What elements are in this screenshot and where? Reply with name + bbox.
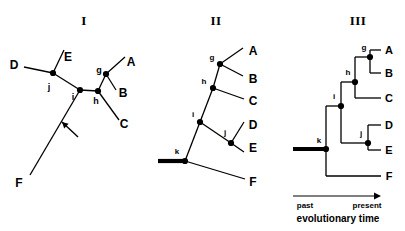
panel-II-branch-3: [213, 88, 244, 99]
panel-I-branch-0: [24, 67, 53, 73]
panel-II-branch-9: [185, 161, 245, 179]
panel-I-node-label-i: i: [72, 93, 75, 102]
panel-II-title: II: [210, 14, 221, 27]
time-axis-past-label: past: [297, 202, 313, 210]
panel-I-tip-label-F: F: [15, 177, 22, 189]
panel-II-tip-label-A: A: [249, 45, 258, 57]
panel-III-node-label-i: i: [333, 93, 335, 101]
panel-I-branch-4: [98, 74, 106, 91]
panel-III-tip-label-B: B: [385, 68, 393, 79]
panel-I-branch-7: [98, 91, 119, 120]
panel-III-tip-label-F: F: [386, 171, 393, 182]
panel-II-branch-7: [231, 143, 244, 152]
panel-I-tip-label-B: B: [119, 87, 128, 99]
panel-III-time-axis-arrowhead: [374, 193, 381, 200]
panel-II-node-label-i: i: [192, 111, 194, 119]
panel-II-branch-2: [213, 64, 220, 88]
panel-I-node-label-g: g: [96, 66, 102, 75]
panel-II-branch-5: [200, 122, 231, 143]
panel-III-node-label-j: j: [360, 130, 362, 138]
panel-I-title: I: [81, 14, 87, 27]
panel-II-node-label-j: j: [224, 129, 226, 137]
panel-III-node-g-marker: [367, 54, 373, 60]
panel-I-node-i-marker: [77, 87, 83, 93]
panel-II-node-j-marker: [228, 140, 234, 146]
panel-II-tip-label-D: D: [249, 119, 258, 131]
panel-III-tip-label-E: E: [385, 145, 392, 156]
panel-I-branch-8: [30, 90, 80, 175]
panel-II-node-i-marker: [197, 119, 203, 125]
panel-I-node-j-marker: [50, 70, 56, 76]
panel-II-tip-label-E: E: [249, 142, 257, 154]
panel-III-node-label-h: h: [346, 69, 351, 77]
time-axis-present-label: present: [353, 202, 382, 210]
panel-II-node-label-h: h: [202, 78, 207, 86]
panel-I-node-label-h: h: [93, 97, 99, 106]
panel-III-node-k-marker: [323, 146, 329, 152]
panel-III-node-label-g: g: [362, 44, 367, 52]
panel-II-node-label-k: k: [175, 148, 179, 156]
panel-I-tip-label-C: C: [120, 118, 129, 130]
panel-II-branch-6: [231, 122, 244, 143]
panel-III-tip-label-A: A: [385, 45, 393, 56]
panel-I-node-g-marker: [103, 71, 109, 77]
panel-III-node-j-marker: [365, 140, 371, 146]
tree-lines-layer: [0, 0, 405, 231]
panel-I-annotation-arrow-shaft: [62, 122, 78, 137]
panel-III-node-i-marker: [338, 103, 344, 109]
panel-I-annotation-arrow-head: [62, 122, 69, 128]
panel-II-tip-label-F: F: [249, 176, 256, 188]
panel-III-title: III: [350, 14, 367, 27]
panel-I-branch-2: [53, 73, 80, 90]
panel-I-tip-label-D: D: [10, 59, 19, 71]
panel-I-branch-5: [106, 57, 125, 74]
time-axis-title: evolutionary time: [297, 214, 380, 224]
panel-II-tip-label-C: C: [249, 95, 258, 107]
panel-II-node-g-marker: [217, 61, 223, 67]
panel-II-branch-8: [185, 122, 200, 161]
panel-II-branch-1: [220, 64, 243, 76]
panel-III-node-label-k: k: [317, 137, 321, 145]
panel-II-node-k-marker: [182, 158, 188, 164]
phylogenetic-tree-figure: jihgDEABCFIghijkABCDEFIIghijkABCDEFIIIpa…: [0, 0, 405, 231]
panel-I-branch-3: [80, 90, 98, 91]
panel-II-branch-0: [220, 48, 243, 64]
panel-II-node-label-g: g: [210, 54, 215, 62]
panel-I-node-h-marker: [95, 88, 101, 94]
panel-II-tip-label-B: B: [249, 73, 258, 85]
panel-I-tip-label-E: E: [64, 51, 72, 63]
panel-II-node-h-marker: [210, 85, 216, 91]
panel-I-branch-6: [106, 74, 116, 90]
panel-III-tip-label-C: C: [385, 93, 393, 104]
panel-I-tip-label-A: A: [127, 56, 136, 68]
panel-I-branch-1: [53, 50, 64, 73]
panel-I-node-label-j: j: [48, 83, 51, 92]
panel-III-tip-label-D: D: [385, 120, 393, 131]
panel-III-node-h-marker: [352, 79, 358, 85]
panel-II-branch-4: [200, 88, 213, 122]
